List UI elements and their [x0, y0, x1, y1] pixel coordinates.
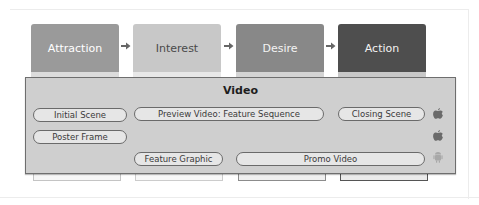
arrow-right-icon [121, 41, 131, 51]
arrow-right-icon [326, 41, 336, 51]
android-icon [432, 151, 444, 164]
item-label: Feature Graphic [145, 154, 213, 164]
item-initial-scene: Initial Scene [33, 108, 127, 122]
video-title: Video [26, 84, 455, 97]
item-poster-frame: Poster Frame [33, 130, 127, 144]
stage-label: Action [365, 42, 399, 55]
item-feature-graphic: Feature Graphic [134, 152, 223, 166]
arrow-right-icon [224, 41, 234, 51]
stage-interest: Interest [133, 24, 221, 72]
frame-bottom-border [0, 197, 479, 198]
stage-attraction: Attraction [31, 24, 119, 72]
item-label: Promo Video [304, 154, 357, 164]
apple-icon [432, 107, 444, 120]
item-label: Closing Scene [352, 109, 412, 119]
stage-label: Attraction [48, 42, 102, 55]
item-promo-video: Promo Video [236, 152, 425, 166]
stage-desire: Desire [236, 24, 324, 72]
stage-label: Desire [262, 42, 297, 55]
item-label: Preview Video: Feature Sequence [158, 109, 300, 119]
item-label: Poster Frame [52, 132, 108, 142]
item-preview-video: Preview Video: Feature Sequence [134, 107, 324, 121]
frame-right-border [468, 9, 469, 199]
frame-top-border [10, 9, 469, 10]
item-closing-scene: Closing Scene [338, 107, 425, 121]
apple-icon [432, 129, 444, 142]
stage-label: Interest [156, 42, 198, 55]
video-section: Video Initial Scene Preview Video: Featu… [25, 77, 456, 174]
stage-action: Action [338, 24, 426, 72]
item-label: Initial Scene [54, 110, 106, 120]
